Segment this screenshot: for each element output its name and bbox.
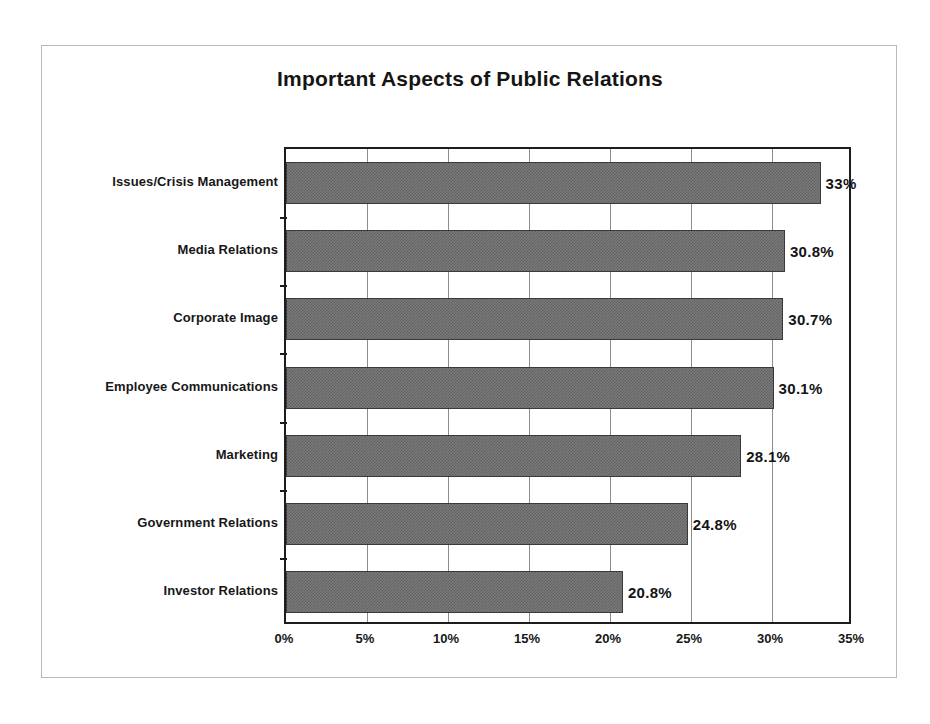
category-axis-tick bbox=[280, 422, 287, 424]
category-label: Government Relations bbox=[137, 514, 278, 529]
bar-row: 33% bbox=[286, 162, 849, 204]
category-label: Marketing bbox=[216, 446, 278, 461]
bar-row: 30.8% bbox=[286, 230, 849, 272]
bar-row: 24.8% bbox=[286, 503, 849, 545]
chart-figure: Important Aspects of Public Relations Is… bbox=[41, 45, 897, 678]
bar-value-label: 30.1% bbox=[779, 379, 823, 396]
bar-row: 28.1% bbox=[286, 435, 849, 477]
x-tick-label: 15% bbox=[514, 631, 540, 646]
bar[interactable] bbox=[286, 298, 783, 340]
bar[interactable] bbox=[286, 503, 688, 545]
x-tick-label: 35% bbox=[838, 631, 864, 646]
category-axis-tick bbox=[280, 490, 287, 492]
category-label: Employee Communications bbox=[105, 378, 278, 393]
x-tick-label: 20% bbox=[595, 631, 621, 646]
bar-value-label: 33% bbox=[826, 175, 857, 192]
chart-title: Important Aspects of Public Relations bbox=[42, 67, 898, 91]
plot-area: 33%30.8%30.7%30.1%28.1%24.8%20.8% bbox=[284, 147, 851, 624]
bar-row: 30.7% bbox=[286, 298, 849, 340]
category-label: Corporate Image bbox=[173, 310, 278, 325]
category-label: Issues/Crisis Management bbox=[112, 174, 278, 189]
category-axis-tick bbox=[280, 285, 287, 287]
x-tick-label: 5% bbox=[356, 631, 375, 646]
category-axis-tick bbox=[280, 217, 287, 219]
bar-value-label: 24.8% bbox=[693, 515, 737, 532]
value-axis-labels: 0%5%10%15%20%25%30%35% bbox=[284, 631, 851, 659]
bar[interactable] bbox=[286, 162, 821, 204]
bar-row: 30.1% bbox=[286, 367, 849, 409]
category-axis-tick bbox=[280, 353, 287, 355]
category-axis-labels: Issues/Crisis ManagementMedia RelationsC… bbox=[42, 147, 278, 624]
bar[interactable] bbox=[286, 435, 741, 477]
x-tick-label: 25% bbox=[676, 631, 702, 646]
category-label: Media Relations bbox=[178, 242, 278, 257]
bar[interactable] bbox=[286, 571, 623, 613]
bar[interactable] bbox=[286, 367, 774, 409]
bar-row: 20.8% bbox=[286, 571, 849, 613]
category-label: Investor Relations bbox=[164, 582, 279, 597]
bar[interactable] bbox=[286, 230, 785, 272]
bars-layer: 33%30.8%30.7%30.1%28.1%24.8%20.8% bbox=[286, 149, 849, 622]
bar-value-label: 28.1% bbox=[746, 447, 790, 464]
x-tick-label: 30% bbox=[757, 631, 783, 646]
bar-value-label: 30.7% bbox=[788, 311, 832, 328]
bar-value-label: 20.8% bbox=[628, 583, 672, 600]
x-tick-label: 10% bbox=[433, 631, 459, 646]
bar-value-label: 30.8% bbox=[790, 243, 834, 260]
category-axis-tick bbox=[280, 558, 287, 560]
x-tick-label: 0% bbox=[275, 631, 294, 646]
